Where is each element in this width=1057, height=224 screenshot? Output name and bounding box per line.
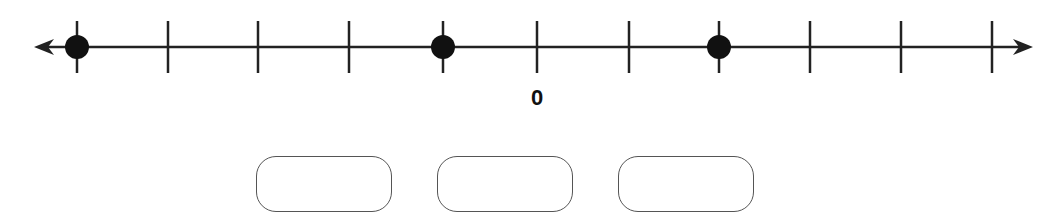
number-line [0,0,1057,140]
answer-box-3[interactable] [618,156,754,212]
plotted-point [707,35,731,59]
plotted-point [65,35,89,59]
answer-box-2[interactable] [437,156,573,212]
plotted-point [431,35,455,59]
answer-box-1[interactable] [256,156,392,212]
zero-label: 0 [531,85,543,111]
